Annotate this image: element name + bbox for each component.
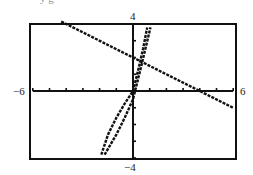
graph-window: 4 −4 −6 6 [0,0,253,175]
ymin-label: −4 [124,161,136,173]
series-line [61,22,233,108]
ymax-label: 4 [130,10,136,22]
xmin-label: −6 [13,85,25,97]
plot-series [61,22,233,155]
xmax-label: 6 [240,85,246,97]
